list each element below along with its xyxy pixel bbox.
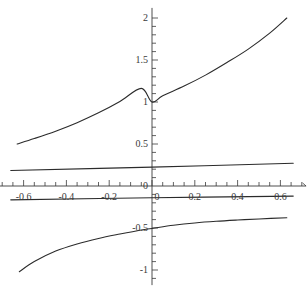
plot-figure: 21.510.50-0.5-1-0.6-0.4-0.200.20.40.6 x: [0, 0, 308, 287]
x-tick-label: 0.2: [189, 192, 202, 202]
x-tick-label: 0: [155, 192, 160, 202]
axes-group: [0, 8, 306, 285]
y-tick-label: 1: [143, 97, 148, 107]
y-tick-label: 2: [143, 13, 148, 23]
x-tick-label: -0.6: [16, 192, 32, 202]
y-tick-label: 0: [143, 181, 148, 191]
x-tick-label: -0.2: [101, 192, 117, 202]
y-tick-label: 0.5: [136, 139, 149, 149]
y-tick-label: -0.5: [132, 223, 148, 233]
plot-canvas: [0, 0, 308, 287]
x-tick-label: -0.4: [58, 192, 74, 202]
x-tick-label: 0.6: [274, 192, 287, 202]
x-tick-label: 0.4: [231, 192, 244, 202]
y-tick-label: 1.5: [136, 55, 149, 65]
y-tick-label: -1: [140, 265, 148, 275]
